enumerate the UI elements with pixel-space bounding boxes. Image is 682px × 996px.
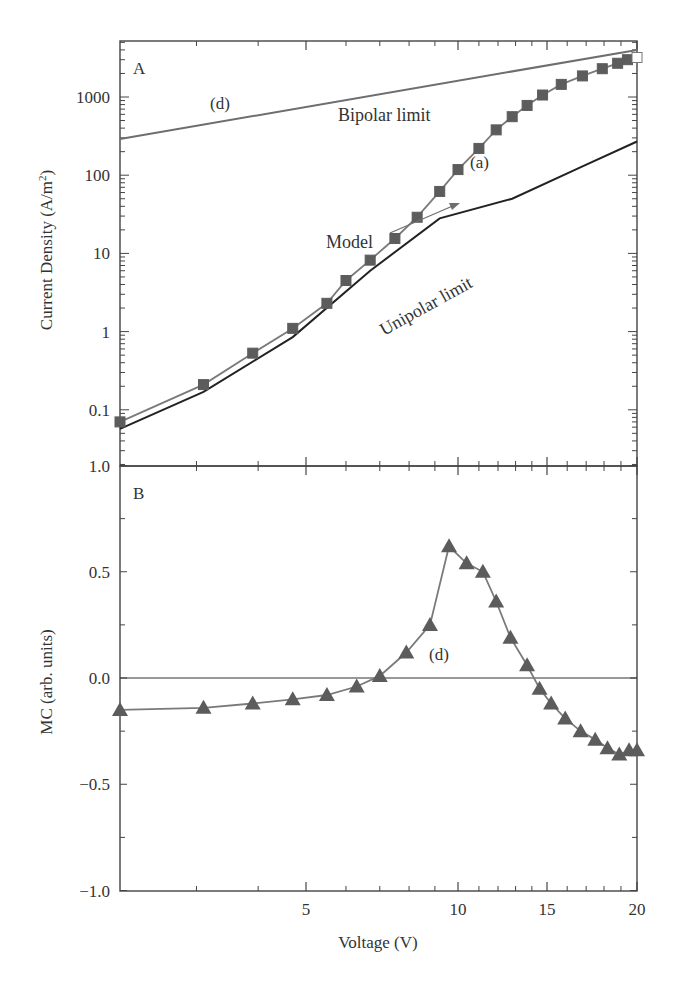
triangle-marker xyxy=(573,723,589,737)
x-axis-title: Voltage (V) xyxy=(338,933,417,952)
square-marker xyxy=(390,234,400,244)
x-tick-label: 20 xyxy=(629,900,646,919)
square-marker xyxy=(474,143,484,153)
bipolar-limit-label: Bipolar limit xyxy=(338,105,431,125)
y-tick-label-a: 0.1 xyxy=(89,401,110,420)
square-marker xyxy=(435,186,445,196)
figure: 0.11101001000 51015201.00.50.0−0.5−1.0 A… xyxy=(0,0,682,996)
y-tick-label-a: 10 xyxy=(93,244,110,263)
bipolar-curve-tag: (d) xyxy=(210,94,230,113)
square-marker xyxy=(365,255,375,265)
square-marker xyxy=(341,276,351,286)
square-marker xyxy=(248,348,258,358)
model-curve-tag: (a) xyxy=(470,153,489,172)
model-label: Model xyxy=(326,232,373,252)
triangle-marker xyxy=(587,732,603,746)
triangle-marker xyxy=(532,681,548,695)
y-tick-label-b: 0.5 xyxy=(89,563,110,582)
bipolar-limit-line xyxy=(120,50,637,139)
y-tick-label-a: 100 xyxy=(85,166,111,185)
x-tick-label: 10 xyxy=(450,900,467,919)
model-arrow-head xyxy=(449,203,460,210)
square-marker xyxy=(491,125,501,135)
square-marker xyxy=(597,64,607,74)
square-marker xyxy=(556,79,566,89)
triangle-marker xyxy=(519,657,535,671)
y-axis-title-a: Current Density (A/m2) xyxy=(36,170,56,330)
square-marker xyxy=(577,71,587,81)
square-marker xyxy=(288,323,298,333)
triangle-marker xyxy=(441,538,457,552)
square-marker xyxy=(322,298,332,308)
triangle-marker xyxy=(599,740,615,754)
y-tick-label-b: −0.5 xyxy=(79,775,110,794)
square-marker xyxy=(453,165,463,175)
unipolar-limit-label: Unipolar limit xyxy=(376,272,475,339)
y-axis-title-b: MC (arb. units) xyxy=(37,629,56,734)
y-tick-label-b: 1.0 xyxy=(89,457,110,476)
square-marker xyxy=(115,417,125,427)
square-marker xyxy=(199,380,209,390)
square-marker xyxy=(538,90,548,100)
mc-curve-tag: (d) xyxy=(429,645,449,664)
triangle-marker xyxy=(475,564,491,578)
model-arrow xyxy=(390,205,455,233)
y-tick-label-a: 1 xyxy=(102,323,111,342)
square-marker xyxy=(632,52,642,62)
y-tick-label-b: 0.0 xyxy=(89,669,110,688)
panel-b-mc: 51015201.00.50.0−0.5−1.0 xyxy=(79,457,645,920)
x-tick-label: 5 xyxy=(302,900,311,919)
square-marker xyxy=(507,112,517,122)
triangle-marker xyxy=(488,594,504,608)
triangle-marker xyxy=(422,617,438,631)
triangle-marker xyxy=(349,679,365,693)
y-tick-label-a: 1000 xyxy=(76,88,110,107)
unipolar-limit-line xyxy=(120,142,637,429)
square-marker xyxy=(613,58,623,68)
y-tick-label-b: −1.0 xyxy=(79,882,110,901)
square-marker xyxy=(622,55,632,65)
panel-b-label: B xyxy=(133,484,144,503)
panel-a-label: A xyxy=(133,59,146,78)
x-tick-label: 15 xyxy=(539,900,556,919)
square-marker xyxy=(522,100,532,110)
triangle-marker xyxy=(502,630,518,644)
